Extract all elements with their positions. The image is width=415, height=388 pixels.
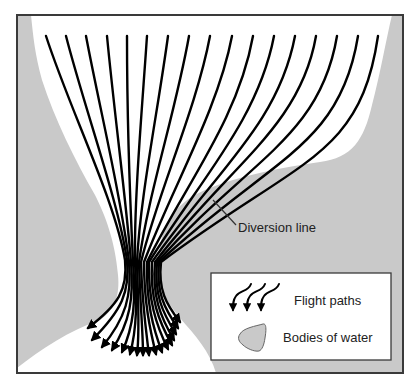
legend-box	[211, 273, 391, 360]
legend	[211, 273, 391, 360]
diversion-line-label: Diversion line	[238, 220, 316, 235]
legend-bodies-of-water-label: Bodies of water	[283, 330, 373, 345]
legend-flight-paths-label: Flight paths	[294, 293, 361, 308]
